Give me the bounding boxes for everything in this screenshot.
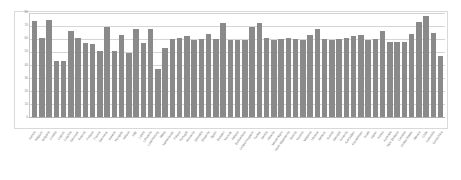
bar: [315, 29, 320, 117]
bar: [148, 29, 153, 117]
bar: [394, 42, 399, 117]
bar: [228, 40, 233, 117]
bar: [97, 51, 102, 117]
bar: [39, 38, 44, 117]
bar: [104, 27, 109, 117]
bar: [83, 43, 88, 117]
bar: [61, 61, 66, 117]
bar: [358, 35, 363, 117]
bar: [249, 27, 254, 117]
bar: [126, 53, 131, 117]
bar: [155, 69, 160, 117]
bar: [365, 40, 370, 117]
bar-chart-figure: 80706050403020100 AustriaBelgiumBulgaria…: [0, 0, 461, 180]
y-axis-tick-label: 30: [24, 77, 28, 80]
bar: [351, 36, 356, 117]
bar: [264, 38, 269, 117]
y-axis-tick-label: 60: [24, 38, 28, 41]
bar: [344, 38, 349, 117]
bar-series: [30, 13, 445, 117]
bar: [75, 38, 80, 117]
bar: [112, 51, 117, 117]
x-axis-tick: Kazakhstan: [357, 131, 364, 177]
bar: [402, 42, 407, 117]
bar: [409, 34, 414, 117]
bar: [170, 39, 175, 117]
y-axis-tick-label: 80: [24, 11, 28, 14]
bar: [380, 31, 385, 117]
bar: [90, 44, 95, 117]
bar: [213, 39, 218, 117]
y-axis-tick-label: 50: [24, 51, 28, 54]
bar: [68, 31, 73, 117]
x-axis: AustriaBelgiumBulgariaCroatiaCyprusCzech…: [29, 131, 445, 177]
bar: [322, 39, 327, 117]
bar: [54, 61, 59, 117]
bar: [119, 35, 124, 117]
bar: [191, 40, 196, 117]
bar: [431, 33, 436, 118]
bar: [373, 39, 378, 117]
y-axis-tick-label: 20: [24, 90, 28, 93]
bar: [177, 38, 182, 117]
bar: [206, 34, 211, 117]
x-axis-tick: Mexico: [415, 131, 422, 177]
y-axis: 80706050403020100: [16, 13, 28, 118]
y-axis-tick-label: 70: [24, 24, 28, 27]
bar: [46, 20, 51, 118]
bar: [32, 21, 37, 117]
bar: [278, 39, 283, 117]
bar: [257, 23, 262, 117]
bar: [336, 39, 341, 117]
bar: [286, 38, 291, 117]
bar: [387, 42, 392, 117]
x-axis-tick: Ireland: [124, 131, 131, 177]
bar: [141, 43, 146, 117]
bar: [184, 36, 189, 117]
bar: [438, 56, 443, 117]
bar: [329, 40, 334, 117]
bar: [293, 39, 298, 117]
bar: [235, 40, 240, 117]
bar: [162, 48, 167, 117]
bar: [271, 40, 276, 117]
y-axis-tick-label: 0: [26, 116, 28, 119]
bar: [242, 40, 247, 117]
x-axis-tick-label: Ireland: [123, 131, 131, 141]
y-axis-tick-label: 40: [24, 64, 28, 67]
bar: [220, 23, 225, 117]
bar: [300, 40, 305, 117]
plot-area: [29, 13, 445, 118]
bar: [423, 16, 428, 117]
bar: [199, 39, 204, 117]
y-axis-tick-label: 10: [24, 103, 28, 106]
bar: [133, 29, 138, 117]
bar: [307, 35, 312, 117]
bar: [416, 22, 421, 117]
x-axis-tick: Costa Rica: [437, 131, 444, 177]
